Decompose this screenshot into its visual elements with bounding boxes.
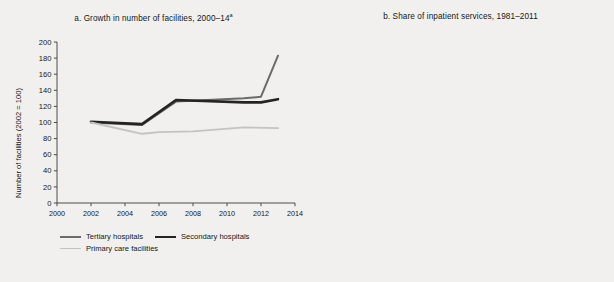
svg-text:200: 200 bbox=[39, 38, 52, 47]
svg-text:80: 80 bbox=[43, 134, 51, 143]
legend-swatch-primary-care bbox=[60, 248, 81, 249]
svg-text:2004: 2004 bbox=[117, 209, 133, 218]
legend-label-primary-care: Primary care facilities bbox=[86, 244, 158, 253]
svg-text:0: 0 bbox=[47, 199, 51, 208]
svg-text:140: 140 bbox=[39, 86, 52, 95]
legend-row-1: Tertiary hospitals Secondary hospitals bbox=[60, 232, 310, 241]
legend-label-tertiary: Tertiary hospitals bbox=[86, 232, 143, 241]
legend-item-secondary-hospitals[interactable]: Secondary hospitals bbox=[155, 232, 249, 241]
chart-panel-b: b. Share of inpatient services, 1981–201… bbox=[307, 0, 614, 282]
svg-text:40: 40 bbox=[43, 166, 51, 175]
legend-item-tertiary-hospitals[interactable]: Tertiary hospitals bbox=[60, 232, 143, 241]
legend-item-primary-care-facilities[interactable]: Primary care facilities bbox=[60, 244, 158, 253]
chart-panel-a: a. Growth in number of facilities, 2000–… bbox=[0, 0, 307, 282]
svg-text:20: 20 bbox=[43, 183, 51, 192]
svg-text:2012: 2012 bbox=[253, 209, 269, 218]
svg-text:180: 180 bbox=[39, 54, 52, 63]
svg-text:2000: 2000 bbox=[49, 209, 65, 218]
legend-swatch-secondary bbox=[155, 236, 176, 238]
panel-b-plot: 0102030405060708090198119841987199019931… bbox=[307, 0, 614, 282]
svg-text:160: 160 bbox=[39, 70, 52, 79]
legend-label-secondary: Secondary hospitals bbox=[181, 232, 249, 241]
figure-container: a. Growth in number of facilities, 2000–… bbox=[0, 0, 614, 282]
svg-text:2014: 2014 bbox=[287, 209, 303, 218]
svg-text:120: 120 bbox=[39, 102, 52, 111]
svg-text:2006: 2006 bbox=[151, 209, 167, 218]
legend-swatch-tertiary bbox=[60, 236, 81, 238]
svg-text:2008: 2008 bbox=[185, 209, 201, 218]
svg-text:100: 100 bbox=[39, 118, 52, 127]
svg-text:2002: 2002 bbox=[83, 209, 99, 218]
svg-text:60: 60 bbox=[43, 150, 51, 159]
svg-text:2010: 2010 bbox=[219, 209, 235, 218]
panel-a-legend: Tertiary hospitals Secondary hospitals P… bbox=[60, 232, 310, 256]
legend-row-2: Primary care facilities bbox=[60, 244, 310, 253]
